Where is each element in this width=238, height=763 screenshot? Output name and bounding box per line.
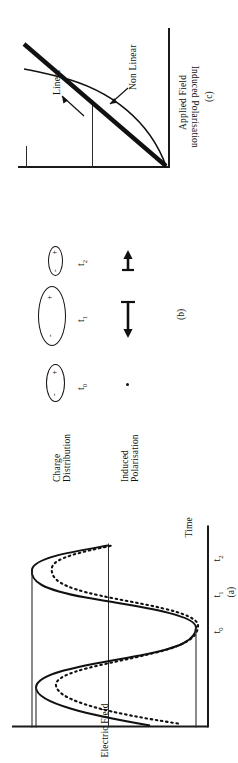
- panel-a-tick-t0: t0: [212, 627, 224, 633]
- panel-a-y-axis-label: Electric Field: [100, 703, 110, 757]
- panel-b: Charge Distribution Induced Polarisation…: [0, 240, 238, 498]
- panel-b-rotated-content: Charge Distribution Induced Polarisation…: [0, 240, 238, 498]
- figure-canvas: Linear Non Linear Induced Polarisation A…: [0, 0, 238, 763]
- linear-leader-arrowhead: [62, 96, 68, 104]
- panel-a-rotated-content: t0 t1 t2 Electric Field Time (a): [0, 498, 238, 763]
- panel-c-y-axis-label: Induced Polarisation: [190, 66, 200, 148]
- panel-a-tick-t1: t1: [212, 591, 224, 597]
- polarisation-arrow-t2: [0, 240, 238, 498]
- panel-c-rotated-content: Linear Non Linear Induced Polarisation A…: [0, 0, 238, 240]
- panel-a-tick-t2: t2: [212, 555, 224, 561]
- panel-c-curves: [0, 0, 238, 240]
- panel-a-letter: (a): [226, 586, 236, 597]
- applied-field-wave-path: [32, 545, 196, 725]
- linear-label: Linear: [52, 69, 62, 95]
- panel-a-x-axis-label: Time: [184, 516, 194, 537]
- panel-a: t0 t1 t2 Electric Field Time (a): [0, 498, 238, 763]
- non-linear-curve-path: [24, 69, 166, 166]
- panel-a-waveforms: [0, 498, 238, 763]
- panel-c-x-axis-label: Applied Field: [178, 75, 188, 130]
- panel-c-letter: (c): [204, 91, 214, 102]
- panel-b-letter: (b): [176, 309, 186, 320]
- polarisation-wave-path: [52, 545, 198, 723]
- non-linear-label: Non Linear: [128, 44, 138, 90]
- panel-c: Linear Non Linear Induced Polarisation A…: [0, 0, 238, 240]
- linear-curve-path: [24, 44, 166, 166]
